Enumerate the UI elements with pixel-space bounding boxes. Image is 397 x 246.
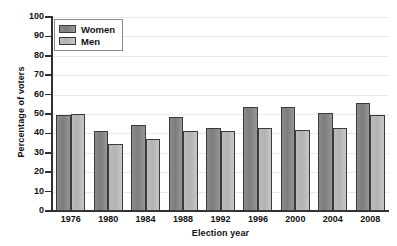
bar-women-2008 [356,103,371,211]
bar-women-1976 [56,115,71,211]
bar-women-1980 [94,131,109,212]
y-axis-tick-label: 0 [0,205,44,215]
y-axis-tick-label: 40 [0,127,44,137]
y-axis-tick-label-wrap: 20 [0,166,44,177]
y-axis-tick [45,113,51,115]
y-axis-tick-label: 80 [0,50,44,60]
x-axis-tick-label-2000: 2000 [275,214,315,224]
y-axis-tick-label-wrap: 60 [0,89,44,100]
y-axis-tick [45,152,51,154]
legend-item-women: Women [59,23,115,35]
y-axis-tick-label-wrap: 80 [0,50,44,61]
gridline [52,17,389,18]
y-axis-tick-label: 70 [0,69,44,79]
bar-men-1976 [71,114,86,211]
x-axis-tick-label-2004: 2004 [313,214,353,224]
bar-men-1980 [108,144,123,211]
y-axis-tick-label-wrap: 70 [0,69,44,80]
y-axis-tick [45,210,51,212]
y-axis-tick-label-wrap: 0 [0,205,44,216]
bar-women-1992 [206,128,221,211]
y-axis-tick-label-wrap: 50 [0,108,44,119]
bar-women-2004 [318,113,333,211]
gridline [52,56,389,57]
bar-men-1984 [146,139,161,211]
bar-men-1996 [258,128,273,211]
y-axis-tick-label-wrap: 10 [0,186,44,197]
y-axis-tick-label: 10 [0,186,44,196]
y-axis-tick-label: 30 [0,147,44,157]
x-axis-title: Election year [52,228,389,238]
bar-chart: Percentage of voters 0102030405060708090… [0,0,397,246]
bar-men-1992 [221,131,236,212]
bar-women-2000 [281,107,296,211]
y-axis-tick [45,74,51,76]
bar-men-2008 [370,115,385,211]
y-axis-tick-label-wrap: 90 [0,30,44,41]
y-axis-tick-label-wrap: 40 [0,127,44,138]
legend-label-women: Women [81,24,115,35]
y-axis-tick-label-wrap: 30 [0,147,44,158]
x-axis-tick-label-1996: 1996 [238,214,278,224]
x-axis-tick-label-1992: 1992 [201,214,241,224]
legend: Women Men [54,19,123,51]
legend-swatch-men-icon [59,37,76,45]
y-axis-tick [45,36,51,38]
y-axis-tick-label: 60 [0,89,44,99]
y-axis-line [51,16,53,212]
x-axis-tick-label-2008: 2008 [350,214,390,224]
x-axis-tick-label-1984: 1984 [126,214,166,224]
bar-women-1984 [131,125,146,211]
gridline [52,114,389,115]
legend-swatch-women-icon [59,25,76,33]
y-axis-tick [45,171,51,173]
gridline [52,75,389,76]
y-axis-tick [45,16,51,18]
gridline [52,95,389,96]
x-axis-tick-label-1980: 1980 [88,214,128,224]
y-axis-tick-label: 90 [0,30,44,40]
bar-men-2004 [333,128,348,211]
legend-label-men: Men [81,36,100,47]
y-axis-tick-label: 50 [0,108,44,118]
y-axis-tick [45,94,51,96]
legend-item-men: Men [59,35,115,47]
y-axis-tick [45,55,51,57]
y-axis-tick [45,191,51,193]
bar-women-1988 [169,117,184,211]
y-axis-tick-label: 20 [0,166,44,176]
bar-men-1988 [183,131,198,212]
bar-men-2000 [295,130,310,211]
x-axis-tick-label-1976: 1976 [51,214,91,224]
y-axis-tick-label-wrap: 100 [0,11,44,22]
bar-women-1996 [243,107,258,211]
y-axis-tick [45,133,51,135]
y-axis-tick-label: 100 [0,11,44,21]
x-axis-tick-label-1988: 1988 [163,214,203,224]
